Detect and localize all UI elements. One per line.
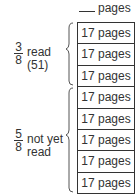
fraction-read: 3 8 [14,41,23,67]
brace-read [66,23,73,85]
page-box: 17 pages [78,66,134,87]
label-read: read (51) [27,46,51,72]
page-box: 17 pages [78,173,134,194]
page-boxes: 17 pages 17 pages 17 pages 17 pages 17 p… [77,22,135,194]
page-box: 17 pages [78,151,134,172]
page-box: 17 pages [78,130,134,151]
page-box: 17 pages [78,109,134,130]
page-box: 17 pages [78,44,134,65]
page-box: 17 pages [78,87,134,108]
label-not-yet-read: not yet read [27,133,63,159]
page-box: 17 pages [78,23,134,44]
fraction-not-yet-read: 5 8 [14,128,23,154]
brace-not-yet-read [66,88,73,192]
